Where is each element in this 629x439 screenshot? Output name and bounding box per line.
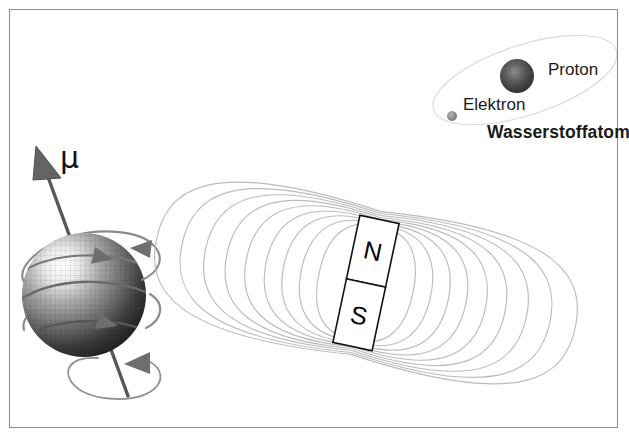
diagram-canvas: N S xyxy=(0,0,629,439)
figure-root: N S Proton Elektron Wasserstoffatom μ xyxy=(0,0,629,439)
proton-sphere-mesh xyxy=(500,59,534,93)
magnetic-moment-symbol: μ xyxy=(60,143,79,173)
spin-arrowhead-upper xyxy=(130,240,152,258)
bar-magnet-group: N S xyxy=(140,162,591,403)
precession-arrowhead xyxy=(124,352,150,374)
spin-sphere-mesh xyxy=(22,233,146,357)
hydrogen-atom-title: Wasserstoffatom xyxy=(487,124,629,142)
electron-label: Elektron xyxy=(463,96,525,113)
magnetic-moment-group xyxy=(20,146,161,399)
mu-arrowhead xyxy=(33,146,61,180)
proton-label: Proton xyxy=(548,61,598,78)
electron-dot xyxy=(447,111,457,121)
spin-loop-mid-front xyxy=(146,294,160,328)
